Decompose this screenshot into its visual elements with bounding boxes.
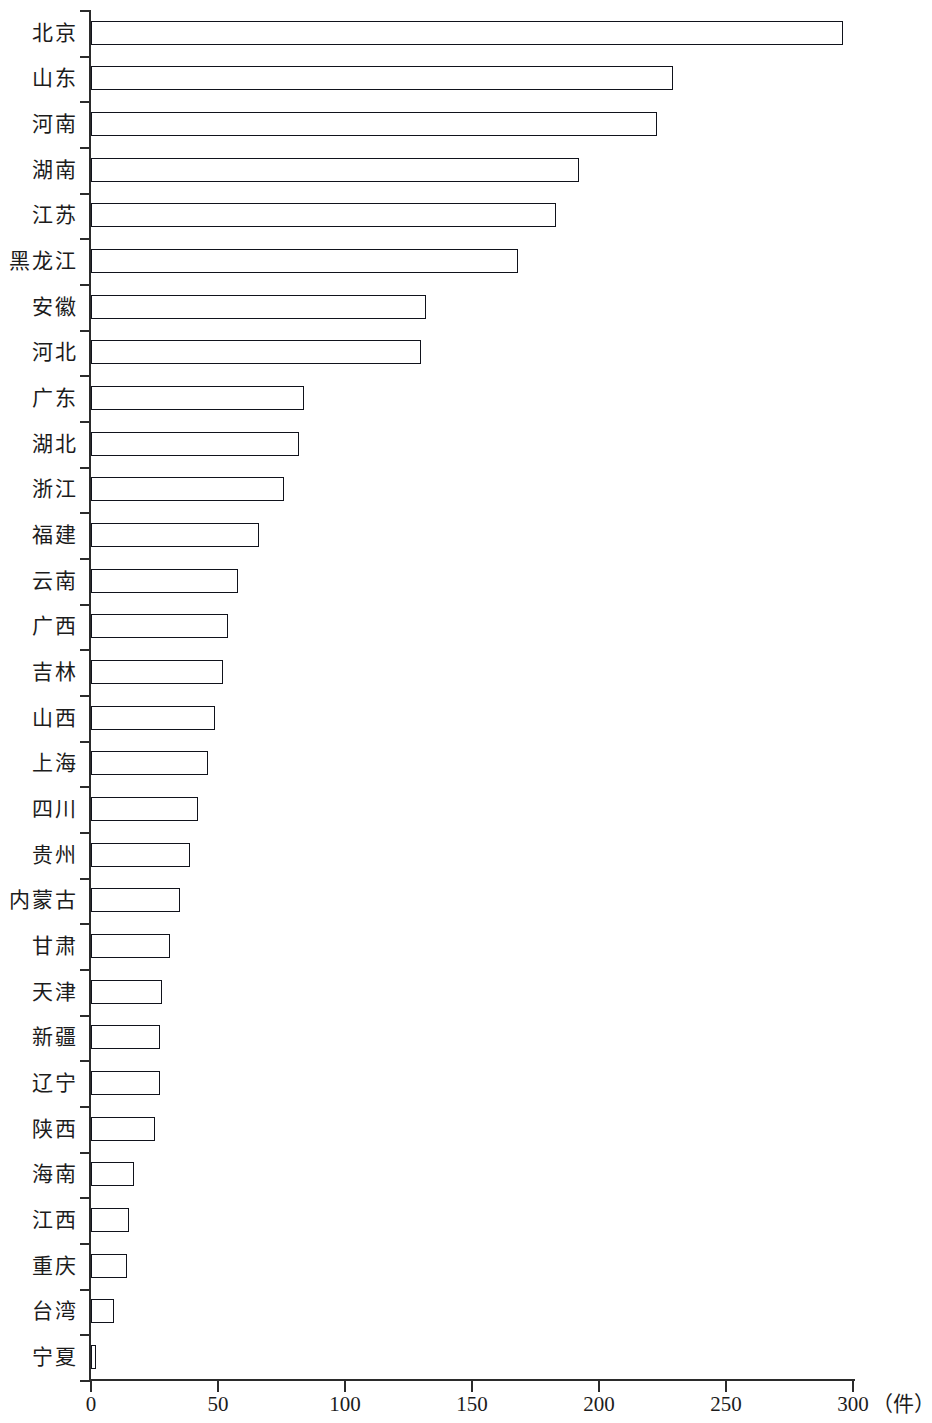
- bar: [91, 980, 162, 1004]
- bar: [91, 249, 518, 273]
- category-row: 海南: [91, 1152, 853, 1198]
- x-axis-tick: [471, 1381, 473, 1392]
- category-label: 四川: [32, 799, 78, 820]
- category-row: 甘肃: [91, 923, 853, 969]
- category-row: 湖北: [91, 421, 853, 467]
- y-axis-tick: [80, 147, 91, 149]
- category-label: 河北: [32, 342, 78, 363]
- category-label: 北京: [32, 22, 78, 43]
- y-axis-tick: [80, 604, 91, 606]
- category-label: 天津: [32, 981, 78, 1002]
- bar: [91, 1208, 129, 1232]
- category-label: 浙江: [32, 479, 78, 500]
- category-label: 陕西: [32, 1118, 78, 1139]
- y-axis-tick: [80, 1289, 91, 1291]
- y-axis-tick: [80, 421, 91, 423]
- category-label: 上海: [32, 753, 78, 774]
- x-axis-tick: [217, 1381, 219, 1392]
- category-row: 河南: [91, 101, 853, 147]
- category-label: 甘肃: [32, 936, 78, 957]
- category-label: 湖北: [32, 433, 78, 454]
- x-axis-tick-label: 0: [86, 1394, 97, 1415]
- x-axis-tick-label: 100: [329, 1394, 361, 1415]
- bar: [91, 21, 843, 45]
- bar: [91, 386, 304, 410]
- category-row: 江西: [91, 1197, 853, 1243]
- category-row: 广东: [91, 375, 853, 421]
- y-axis-tick: [80, 1015, 91, 1017]
- y-axis-tick: [80, 512, 91, 514]
- category-label: 辽宁: [32, 1073, 78, 1094]
- category-label: 云南: [32, 570, 78, 591]
- category-row: 山西: [91, 695, 853, 741]
- category-row: 江苏: [91, 193, 853, 239]
- y-axis-tick: [80, 10, 91, 12]
- bar: [91, 706, 215, 730]
- bar: [91, 888, 180, 912]
- category-row: 山东: [91, 56, 853, 102]
- y-axis-tick: [80, 467, 91, 469]
- category-label: 重庆: [32, 1255, 78, 1276]
- y-axis-tick: [80, 878, 91, 880]
- category-label: 江苏: [32, 205, 78, 226]
- bar: [91, 797, 198, 821]
- x-axis-tick-label: 250: [710, 1394, 742, 1415]
- bar: [91, 1117, 155, 1141]
- bar: [91, 112, 657, 136]
- bar: [91, 1025, 160, 1049]
- y-axis-tick: [80, 741, 91, 743]
- x-axis-tick: [598, 1381, 600, 1392]
- category-label: 内蒙古: [9, 890, 78, 911]
- category-label: 安徽: [32, 296, 78, 317]
- category-label: 台湾: [32, 1301, 78, 1322]
- category-row: 内蒙古: [91, 878, 853, 924]
- y-axis-tick: [80, 832, 91, 834]
- y-axis-tick: [80, 1334, 91, 1336]
- category-label: 黑龙江: [9, 251, 78, 272]
- category-row: 贵州: [91, 832, 853, 878]
- bar: [91, 477, 284, 501]
- y-axis-tick: [80, 1197, 91, 1199]
- category-label: 吉林: [32, 662, 78, 683]
- bar: [91, 1254, 127, 1278]
- category-row: 北京: [91, 10, 853, 56]
- bar: [91, 660, 223, 684]
- bar: [91, 1162, 134, 1186]
- category-row: 广西: [91, 604, 853, 650]
- x-axis-tick-label: 300: [837, 1394, 869, 1415]
- category-label: 贵州: [32, 844, 78, 865]
- y-axis-tick: [80, 1106, 91, 1108]
- bar: [91, 1071, 160, 1095]
- y-axis-tick: [80, 969, 91, 971]
- y-axis-tick: [80, 193, 91, 195]
- bar: [91, 614, 228, 638]
- category-label: 福建: [32, 525, 78, 546]
- y-axis-tick: [80, 695, 91, 697]
- category-row: 浙江: [91, 467, 853, 513]
- category-label: 湖南: [32, 159, 78, 180]
- category-row: 云南: [91, 558, 853, 604]
- category-row: 陕西: [91, 1106, 853, 1152]
- y-axis-tick: [80, 330, 91, 332]
- category-label: 宁夏: [32, 1347, 78, 1368]
- x-axis-tick-label: 200: [583, 1394, 615, 1415]
- y-axis-tick: [80, 238, 91, 240]
- category-row: 吉林: [91, 649, 853, 695]
- bar: [91, 934, 170, 958]
- category-row: 上海: [91, 741, 853, 787]
- bar: [91, 340, 421, 364]
- y-axis-tick: [80, 284, 91, 286]
- y-axis-tick: [80, 1152, 91, 1154]
- y-axis-tick: [80, 56, 91, 58]
- y-axis-tick: [80, 558, 91, 560]
- y-axis-tick: [80, 375, 91, 377]
- y-axis-tick: [80, 101, 91, 103]
- category-row: 湖南: [91, 147, 853, 193]
- category-row: 重庆: [91, 1243, 853, 1289]
- bar: [91, 203, 556, 227]
- category-label: 山西: [32, 707, 78, 728]
- category-label: 海南: [32, 1164, 78, 1185]
- x-axis-tick-label: 150: [456, 1394, 488, 1415]
- bar: [91, 569, 238, 593]
- x-axis-tick: [344, 1381, 346, 1392]
